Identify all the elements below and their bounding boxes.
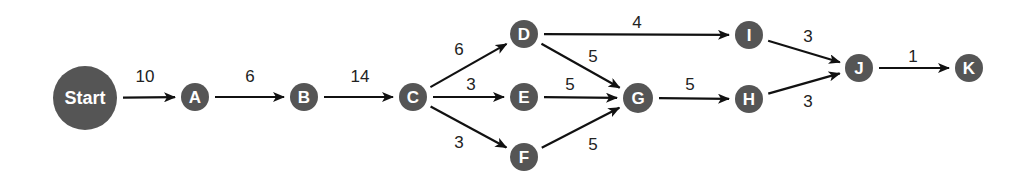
node-label: H (743, 90, 755, 109)
node-j: J (845, 54, 873, 82)
edge-weight-label: 3 (454, 133, 463, 152)
node-d: D (510, 20, 538, 48)
node-f: F (510, 143, 538, 171)
node-h: H (735, 85, 763, 113)
node-b: B (290, 83, 318, 111)
node-label: F (519, 148, 529, 167)
edge-weight-label: 10 (136, 67, 155, 86)
node-label: G (631, 89, 644, 108)
edge-weight-label: 3 (803, 92, 812, 111)
edge-weight-label: 4 (632, 13, 641, 32)
edge-weight-label: 6 (245, 67, 254, 86)
edge-weight-label: 3 (803, 27, 812, 46)
edge-g-h (659, 98, 729, 99)
node-label: B (298, 88, 310, 107)
edge-h-j (768, 73, 839, 93)
edge-weight-label: 3 (466, 75, 475, 94)
edge-e-g (544, 97, 617, 98)
node-k: K (955, 54, 983, 82)
node-label: A (189, 88, 201, 107)
node-a: A (181, 83, 209, 111)
edge-weight-label: 5 (685, 75, 694, 94)
edge-weight-label: 6 (454, 40, 463, 59)
node-label: E (518, 88, 529, 107)
node-g: G (623, 83, 653, 113)
edge-weight-label: 5 (565, 75, 574, 94)
node-label: C (407, 88, 419, 107)
node-label: K (963, 59, 976, 78)
edge-d-i (544, 34, 729, 35)
node-label: D (518, 25, 530, 44)
edge-weight-label: 5 (588, 47, 597, 66)
edge-weight-label: 14 (351, 67, 370, 86)
nodes-group: StartABCDEFGIHJK (53, 20, 983, 171)
edge-d-g (541, 44, 619, 88)
edge-weight-label: 1 (908, 47, 917, 66)
node-i: I (735, 21, 763, 49)
edge-c-f (431, 107, 507, 148)
node-label: Start (64, 88, 105, 108)
network-diagram: 1061463345555331 StartABCDEFGIHJK (0, 0, 1034, 179)
edge-weight-label: 5 (588, 135, 597, 154)
diagram-canvas: 1061463345555331 StartABCDEFGIHJK (0, 0, 1034, 179)
node-e: E (510, 83, 538, 111)
node-c: C (399, 83, 427, 111)
node-label: J (854, 59, 863, 78)
node-label: I (747, 26, 752, 45)
node-start: Start (53, 66, 117, 130)
edge-f-g (542, 108, 620, 148)
